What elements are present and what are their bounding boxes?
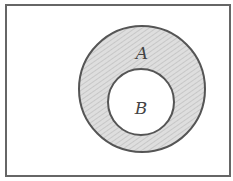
set-b-label: B	[134, 98, 148, 118]
venn-diagram: A B	[0, 0, 233, 181]
set-a-label: A	[134, 43, 148, 63]
